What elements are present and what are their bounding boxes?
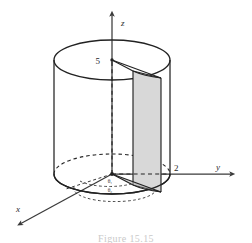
- y-axis-label: y: [215, 162, 220, 172]
- top-center-point: [110, 58, 113, 61]
- z-axis-label: z: [120, 18, 125, 28]
- angle-label-theta1: θ₁: [108, 178, 113, 184]
- radius-label: 2: [174, 163, 179, 173]
- angle-label-theta2: θ₂: [108, 187, 113, 193]
- origin-point: [110, 172, 114, 176]
- figure-caption: Figure 15.15: [0, 232, 252, 243]
- height-label: 5: [96, 56, 101, 66]
- x-axis-label: x: [15, 204, 20, 214]
